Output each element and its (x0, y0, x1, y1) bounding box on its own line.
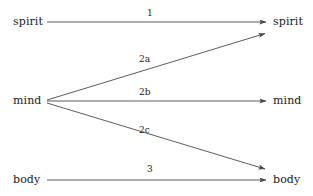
edge-label-2a: 2a (139, 54, 150, 64)
node-left-body: body (13, 174, 40, 186)
node-left-spirit: spirit (13, 16, 43, 28)
edge-label-3: 3 (147, 164, 153, 174)
diagram-canvas: spirit mind body spirit mind body 1 2a 2… (0, 0, 313, 196)
node-right-body: body (273, 174, 300, 186)
edge-label-1: 1 (147, 8, 153, 18)
diagram-edges-layer (0, 0, 313, 196)
node-right-spirit: spirit (273, 16, 303, 28)
edge-label-2b: 2b (139, 87, 151, 97)
edge-line-2c (47, 103, 265, 169)
edge-line-2a (47, 34, 265, 101)
node-right-mind: mind (273, 95, 301, 107)
edge-label-2c: 2c (139, 125, 150, 135)
node-left-mind: mind (13, 95, 41, 107)
